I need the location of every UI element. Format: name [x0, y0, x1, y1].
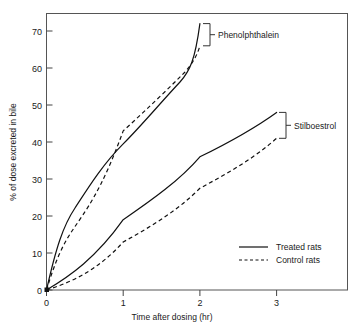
x-tick-label: 2 — [197, 298, 202, 308]
y-axis-title: % of dose excreted in bile — [8, 103, 18, 201]
x-tick-label: 1 — [121, 298, 126, 308]
y-tick-label: 20 — [32, 212, 42, 222]
chart-figure: 0 10 20 30 40 50 60 70 % of dose excrete… — [0, 0, 360, 328]
annotation-label-phenolphthalein: Phenolphthalein — [218, 30, 279, 40]
chart-svg: 0 10 20 30 40 50 60 70 % of dose excrete… — [0, 0, 360, 328]
x-tick-label: 3 — [274, 298, 279, 308]
y-tick-label: 70 — [32, 27, 42, 37]
y-tick-label: 50 — [32, 101, 42, 111]
legend-label-control: Control rats — [276, 255, 320, 265]
y-tick-label: 40 — [32, 138, 42, 148]
legend-label-treated: Treated rats — [276, 242, 322, 252]
y-tick-label: 10 — [32, 249, 42, 259]
y-tick-label: 60 — [32, 64, 42, 74]
y-tick-label: 0 — [37, 286, 42, 296]
x-tick-label-origin: 0 — [44, 298, 49, 308]
x-axis-title: Time after dosing (hr) — [132, 312, 213, 322]
y-tick-label: 30 — [32, 175, 42, 185]
origin-marker — [45, 288, 50, 293]
figure-background — [0, 0, 360, 328]
annotation-label-stilboestrol: Stilboestrol — [294, 121, 336, 131]
